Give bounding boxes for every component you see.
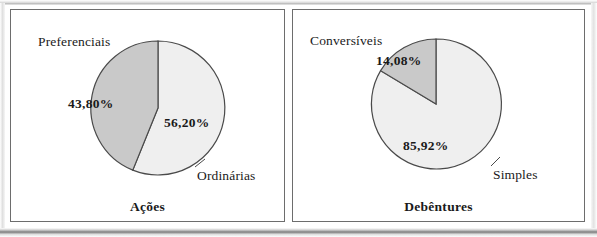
chart-title-debentures: Debêntures xyxy=(293,200,584,214)
page-edge-left xyxy=(0,3,5,231)
pie-value-preferenciais: 43,80% xyxy=(68,97,114,111)
pie-value-ordinarias: 56,20% xyxy=(164,116,210,130)
page-edge-bottom xyxy=(0,228,597,237)
pie-label-conversiveis: Conversíveis xyxy=(310,34,382,48)
chart-panel-debentures: Conversíveis 14,08% 85,92% Simples Debên… xyxy=(292,9,585,222)
pie-value-conversiveis: 14,08% xyxy=(376,54,422,68)
pie-chart-acoes: Preferenciais 43,80% 56,20% Ordinárias A… xyxy=(11,10,284,221)
page-edge-right xyxy=(591,3,597,231)
pie-label-preferenciais: Preferenciais xyxy=(38,35,110,49)
pie-label-simples: Simples xyxy=(493,168,538,182)
page-edge-top xyxy=(0,0,597,5)
pie-value-simples: 85,92% xyxy=(403,139,449,153)
pie-chart-debentures: Conversíveis 14,08% 85,92% Simples Debên… xyxy=(293,10,584,221)
figure-root: Preferenciais 43,80% 56,20% Ordinárias A… xyxy=(0,0,597,237)
leader-line-simples xyxy=(491,157,500,166)
chart-panel-acoes: Preferenciais 43,80% 56,20% Ordinárias A… xyxy=(10,9,285,222)
chart-title-acoes: Ações xyxy=(11,200,284,214)
pie-label-ordinarias: Ordinárias xyxy=(197,169,255,183)
